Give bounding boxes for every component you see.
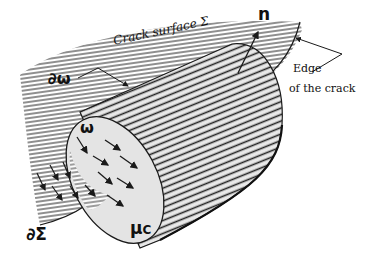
- mu-symbol: μ: [130, 218, 143, 238]
- mu-c-label: μC: [130, 218, 151, 238]
- boundary-sigma-label: ∂Σ: [26, 224, 47, 244]
- edge-leader: [296, 38, 342, 54]
- normal-label: n: [258, 4, 270, 24]
- edge-label-line1: Edge: [293, 62, 322, 75]
- omega-label: ω: [80, 118, 94, 137]
- edge-label-line2: of the crack: [289, 82, 356, 95]
- boundary-omega-label: ∂ω: [48, 69, 71, 88]
- mu-subscript: C: [143, 223, 152, 237]
- crack-cylinder-diagram: [0, 0, 373, 267]
